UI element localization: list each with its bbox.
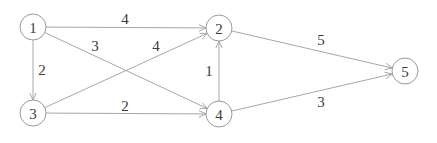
node-2: 2 — [206, 15, 232, 41]
edge-2-to-5: 5 — [232, 31, 393, 70]
node-4: 4 — [206, 101, 232, 127]
edge-3-to-4: 2 — [46, 98, 206, 117]
edge-weight-label: 2 — [121, 98, 129, 114]
edge-1-to-2: 4 — [46, 11, 206, 31]
edge-weight-label: 4 — [152, 38, 160, 54]
edge-1-to-3: 2 — [30, 40, 46, 100]
edge-3-to-2: 4 — [45, 33, 207, 107]
node-label: 5 — [401, 64, 409, 80]
edge-weight-label: 1 — [205, 63, 213, 79]
edge-4-to-2: 1 — [205, 41, 222, 101]
edge-weight-label: 3 — [91, 38, 99, 54]
edge-line — [46, 27, 206, 28]
edge-line — [232, 74, 393, 111]
node-label: 4 — [215, 107, 223, 123]
edge-line — [45, 33, 207, 107]
edge-weight-label: 2 — [38, 62, 46, 78]
node-label: 2 — [215, 21, 223, 37]
node-label: 1 — [29, 20, 37, 36]
node-1: 1 — [20, 14, 46, 40]
node-3: 3 — [20, 100, 46, 126]
graph-diagram: 42342153 12345 — [0, 0, 437, 143]
edge-weight-label: 5 — [317, 32, 325, 48]
edge-4-to-5: 3 — [232, 72, 393, 111]
edge-line — [232, 31, 393, 68]
edge-weight-label: 4 — [121, 11, 129, 27]
node-label: 3 — [29, 106, 37, 122]
edge-weight-label: 3 — [317, 94, 325, 110]
node-5: 5 — [392, 58, 418, 84]
